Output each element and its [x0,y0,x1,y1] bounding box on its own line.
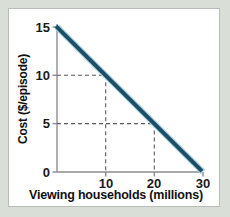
figure-root: 15 10 5 0 10 20 30 Cost ($/episode) View… [0,0,230,217]
x-axis-title: Viewing households (millions) [16,188,216,202]
y-axis-title: Cost ($/episode) [16,29,30,169]
cost-line [56,26,202,171]
